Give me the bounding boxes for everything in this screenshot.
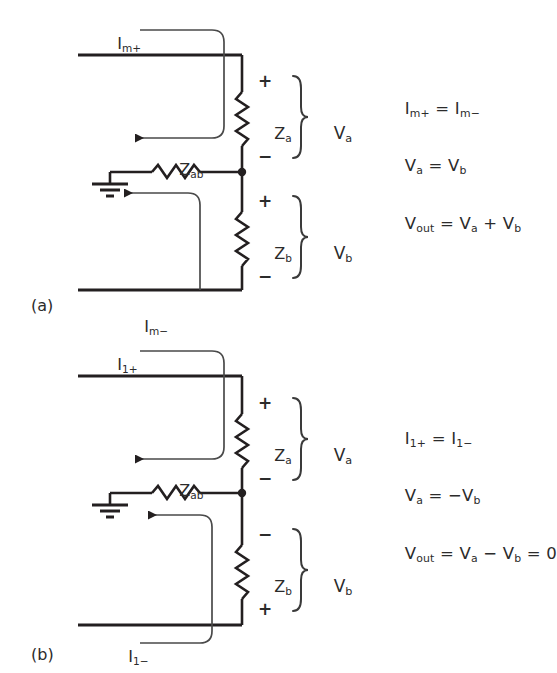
panel-b-tag-text: (b) xyxy=(31,645,54,664)
polarity-zb-b-minus: − xyxy=(258,526,272,543)
panel-a-tag: (a) xyxy=(31,298,53,314)
component-label-za-b-sub: a xyxy=(285,454,291,466)
brace-va-a xyxy=(293,76,308,158)
current-label-b-top: I1+ xyxy=(97,341,138,389)
voltage-label-vb-b-base: V xyxy=(334,576,346,596)
eq-b3-lhs: V xyxy=(405,544,417,563)
component-label-za-a-base: Z xyxy=(274,124,285,143)
panel-b-tag: (b) xyxy=(31,647,54,663)
component-label-zab-b-base: Z xyxy=(179,481,190,500)
polarity-za-a-plus-text: + xyxy=(258,71,272,91)
panel-b-equation-1: I1+ = I1− xyxy=(372,414,557,464)
panel-b-equation-2: Va = −Vb xyxy=(372,472,557,522)
polarity-zb-a-plus: + xyxy=(258,193,272,210)
polarity-za-b-minus-text: − xyxy=(258,468,272,488)
eq-b3-lhs-sub: out xyxy=(416,552,434,565)
component-label-zab-b-sub: ab xyxy=(190,489,203,501)
current-label-a-bottom-sub: m− xyxy=(149,325,168,337)
eq-a1-eq: = xyxy=(435,99,449,118)
brace-va-b xyxy=(293,398,308,480)
panel-b-current-lead-top xyxy=(135,351,224,459)
voltage-label-vb-a: Vb xyxy=(312,228,352,279)
eq-b2-rhs-sub: b xyxy=(474,494,481,507)
panel-a-equation-1: Im+ = Im− xyxy=(372,84,521,134)
current-label-b-top-sub: 1+ xyxy=(122,363,138,375)
eq-a1-rhs-sub: m− xyxy=(460,107,480,120)
polarity-zb-a-minus-text: − xyxy=(258,266,272,286)
panel-a-equation-3: Vout = Va + Vb xyxy=(372,199,521,249)
component-label-zab-a-base: Z xyxy=(179,160,190,179)
voltage-label-vb-b-sub: b xyxy=(345,585,352,598)
eq-a2-lhs-sub: a xyxy=(416,164,423,177)
component-label-zb-a-base: Z xyxy=(274,244,285,263)
panel-a-tag-text: (a) xyxy=(31,296,53,315)
voltage-label-vb-a-sub: b xyxy=(345,252,352,265)
eq-b2-lhs-sub: a xyxy=(416,494,423,507)
eq-a2-eq: = xyxy=(429,156,443,175)
component-label-zab-a: Zab xyxy=(159,146,203,194)
polarity-za-b-minus: − xyxy=(258,470,272,487)
eq-a3-lhs: V xyxy=(405,214,417,233)
panel-a-current-lead-bottom xyxy=(124,193,200,272)
panel-b-equation-3: Vout = Va − Vb = 0 xyxy=(372,529,557,579)
polarity-za-a-minus: − xyxy=(258,148,272,165)
voltage-label-va-a: Va xyxy=(312,108,352,159)
eq-a3-rhs: Va + Vb xyxy=(460,214,522,233)
polarity-zb-b-plus-text: + xyxy=(258,599,272,619)
polarity-zb-a-minus: − xyxy=(258,268,272,285)
resistor-za-a xyxy=(236,92,248,146)
eq-b2-lhs: V xyxy=(405,486,417,505)
component-label-zb-b-sub: b xyxy=(285,585,292,597)
eq-b3-eq: = xyxy=(440,544,454,563)
eq-a2-rhs: V xyxy=(448,156,460,175)
voltage-label-vb-b: Vb xyxy=(312,561,352,612)
resistor-za-b xyxy=(236,414,248,468)
component-label-za-b-base: Z xyxy=(274,446,285,465)
eq-b3-rhs: Va − Vb = 0 xyxy=(460,544,557,563)
polarity-za-a-plus: + xyxy=(258,73,272,90)
panel-a-equation-2: Va = Vb xyxy=(372,142,521,192)
component-label-zb-a-sub: b xyxy=(285,252,292,264)
component-label-zab-a-sub: ab xyxy=(190,168,203,180)
eq-a1-lhs-sub: m+ xyxy=(410,107,430,120)
polarity-zb-a-plus-text: + xyxy=(258,191,272,211)
brace-vb-a xyxy=(293,196,308,278)
resistor-zb-a xyxy=(236,212,248,266)
polarity-za-b-plus-text: + xyxy=(258,393,272,413)
polarity-za-a-minus-text: − xyxy=(258,146,272,166)
voltage-label-va-b: Va xyxy=(312,430,352,481)
voltage-label-va-a-sub: a xyxy=(345,132,352,145)
eq-b1-eq: = xyxy=(432,429,446,448)
eq-b2-rhs: −V xyxy=(448,486,474,505)
resistor-zb-b xyxy=(236,545,248,599)
component-label-za-a-sub: a xyxy=(285,132,291,144)
voltage-label-va-a-base: V xyxy=(334,123,346,143)
current-label-b-bottom-sub: 1− xyxy=(133,655,149,667)
eq-a2-rhs-sub: b xyxy=(459,164,466,177)
voltage-label-va-b-sub: a xyxy=(345,454,352,467)
voltage-label-vb-a-base: V xyxy=(334,243,346,263)
eq-a2-lhs: V xyxy=(405,156,417,175)
brace-vb-b xyxy=(293,529,308,611)
panel-b-equations: I1+ = I1− Va = −Vb Vout = Va − Vb = 0 xyxy=(372,414,557,563)
current-label-a-top-sub: m+ xyxy=(122,42,141,54)
eq-a3-eq: = xyxy=(440,214,454,233)
panel-a-current-lead-top xyxy=(135,30,224,138)
polarity-zb-b-minus-text: − xyxy=(258,524,272,544)
eq-b1-lhs-sub: 1+ xyxy=(410,437,426,450)
panel-a-equations: Im+ = Im− Va = Vb Vout = Va + Vb xyxy=(372,84,521,233)
eq-b2-eq: = xyxy=(429,486,443,505)
eq-b1-rhs-sub: 1− xyxy=(456,437,472,450)
current-label-a-top: Im+ xyxy=(97,20,141,68)
current-label-b-bottom: I1− xyxy=(108,633,149,673)
component-label-zb-b-base: Z xyxy=(274,577,285,596)
eq-a3-lhs-sub: out xyxy=(416,222,434,235)
voltage-label-va-b-base: V xyxy=(334,445,346,465)
component-label-zab-b: Zab xyxy=(159,467,203,515)
polarity-za-b-plus: + xyxy=(258,395,272,412)
polarity-zb-b-plus: + xyxy=(258,601,272,618)
